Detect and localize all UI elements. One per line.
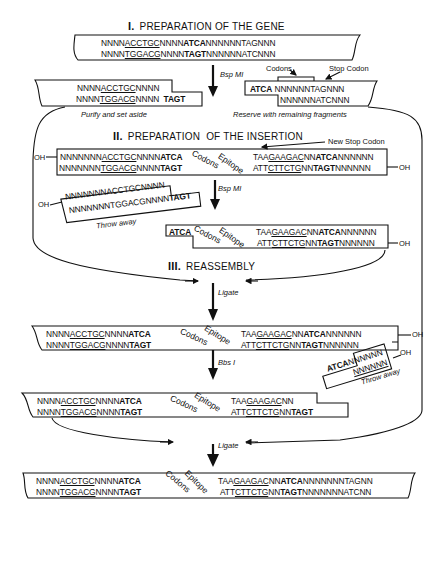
section-1-numeral: I.: [128, 20, 135, 32]
oh-label: OH: [38, 200, 49, 209]
section-1-label: PREPARATION OF THE GENE: [140, 21, 285, 32]
ligated-top-right: TAAGAAGACNNATCANNNNNN: [241, 329, 361, 339]
bbs-cut-bottom-left: NNNNTGGACGNNNNTAGT: [37, 407, 142, 417]
section-2-title: II.PREPARATION OF THE INSERTION: [113, 130, 303, 142]
oh-label: OH: [399, 239, 410, 248]
final-top-right: TAAGAAGACNNATCANNNNNNNTAGNN: [218, 476, 373, 486]
caption-reserve: Reserve with remaining fragments: [233, 110, 347, 119]
ligated-bottom-left: NNNNTGGACGNNNNTAGT: [46, 340, 151, 350]
left-fragment-top: NNNNACCTGCNNNN: [77, 83, 159, 93]
right-fragment-bottom: NNNNNNATCNNN: [280, 95, 349, 105]
insertion-bottom-left: NNNNNNNTGGACGNNNNTAGT: [59, 163, 182, 173]
section-3-title: III.REASSEMBLY: [168, 260, 255, 272]
bbs-cut-bottom-right: ATTCTTCTGNNTAGT: [231, 407, 313, 417]
insertion-top-right: TAAGAAGACNNATCANNNNNN: [253, 152, 373, 162]
gene-top-strand: NNNNACCTGCNNNNATCANNNNNNTAGNNN: [101, 38, 275, 48]
oh-label: OH: [399, 163, 410, 172]
insertion-bottom-right: ATTCTTCTGNNTAGTNNNNNN: [253, 163, 371, 173]
insert-fragment-bottom-right: ATTCTTCTGNNTAGTNNNNNN: [257, 238, 375, 248]
final-top-left: NNNNACCTGCNNNNATCA: [36, 476, 141, 486]
label-stop-codon: Stop Codon: [329, 64, 369, 73]
insert-fragment-top-left: ATCA: [169, 227, 191, 237]
insert-fragment-top-right: TAAGAAGACNNATCANNNNNN: [256, 227, 376, 237]
label-new-stop-codon: New Stop Codon: [328, 137, 385, 146]
step-label-ligate-1: Ligate: [218, 288, 238, 297]
caption-purify: Purify and set aside: [81, 110, 147, 119]
left-fragment-bottom: NNNNTGGACGNNNN TAGT: [76, 94, 185, 104]
section-2-numeral: II.: [113, 130, 123, 142]
step-label-bspmi-1: Bsp MI: [220, 70, 243, 79]
section-3-numeral: III.: [168, 260, 181, 272]
step-label-bbsi: Bbs I: [218, 358, 235, 367]
oh-label: OH: [400, 348, 411, 357]
oh-label: OH: [412, 330, 423, 339]
final-bottom-right: ATTCTTCTGNNTAGTNNNNNNNATCNN: [220, 487, 371, 497]
bbs-cut-top-left: NNNNACCTGCNNNNATCA: [37, 396, 142, 406]
step-label-bspmi-2: Bsp MI: [218, 184, 241, 193]
final-bottom-left: NNNNTGGACGNNNNTAGT: [36, 487, 141, 497]
oh-label: OH: [34, 153, 45, 162]
insertion-top-left: NNNNNNNACCTGCNNNNATCA: [60, 152, 182, 162]
section-2-label: PREPARATION OF THE INSERTION: [128, 131, 303, 142]
step-label-ligate-2: Ligate: [218, 441, 238, 450]
ligated-bottom-right: ATTCTTCTGNNTAGTNNNNNN: [241, 340, 359, 350]
label-codons: Codons: [266, 64, 292, 73]
bbs-cut-top-right: TAAGAAGACNN: [231, 396, 294, 406]
section-1-title: I.PREPARATION OF THE GENE: [128, 20, 285, 32]
section-3-label: REASSEMBLY: [186, 261, 255, 272]
right-fragment-top: ATCA NNNNNNTAGNNN: [250, 84, 344, 94]
gene-bottom-strand: NNNNTGGACGNNNNTAGTNNNNNNATCNNN: [101, 49, 275, 59]
ligated-top-left: NNNNACCTGCNNNNATCA: [46, 329, 151, 339]
